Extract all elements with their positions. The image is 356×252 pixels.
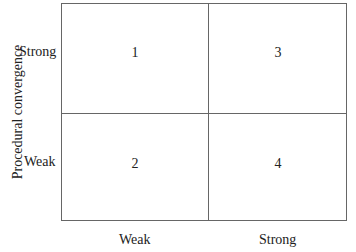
x-level-strong: Strong bbox=[259, 232, 296, 248]
cell-top-left: 1 bbox=[115, 45, 155, 61]
x-level-weak: Weak bbox=[119, 232, 151, 248]
y-axis-title: Procedural convergence bbox=[10, 42, 26, 182]
cell-bottom-right: 4 bbox=[258, 156, 298, 172]
cell-bottom-left: 2 bbox=[115, 156, 155, 172]
cell-top-right: 3 bbox=[258, 45, 298, 61]
y-level-weak: Weak bbox=[24, 154, 56, 170]
matrix-frame bbox=[61, 3, 347, 221]
vertical-divider bbox=[208, 3, 209, 221]
horizontal-divider bbox=[61, 113, 347, 114]
